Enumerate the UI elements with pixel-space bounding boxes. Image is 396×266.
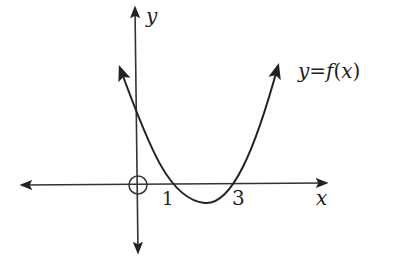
- curve-label-paren-close: ): [353, 59, 361, 83]
- curve-label-x: x: [341, 59, 352, 83]
- y-axis-label: y: [146, 6, 157, 26]
- curve-label-y: y: [298, 59, 309, 83]
- y-axis: [135, 8, 138, 252]
- parabola-curve: [120, 66, 278, 203]
- curve-label: y=f(x): [298, 61, 360, 81]
- graph-canvas: [0, 0, 396, 266]
- root-label-1: 1: [162, 190, 173, 208]
- curve-label-eq: =: [309, 59, 326, 83]
- x-axis-label: x: [316, 188, 327, 208]
- root-label-3: 3: [232, 188, 245, 208]
